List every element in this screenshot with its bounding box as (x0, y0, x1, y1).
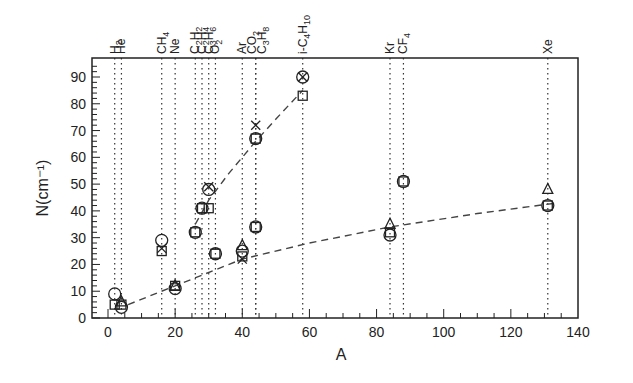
y-tick-label: 30 (70, 230, 86, 246)
x-tick-label: 0 (104, 324, 112, 340)
gas-label: Ne (168, 38, 182, 54)
x-tick-label: 100 (432, 324, 456, 340)
x-tick-label: 20 (167, 324, 183, 340)
gas-label: Kr (383, 42, 397, 54)
gas-label: Xe (541, 39, 555, 54)
y-tick-label: 60 (70, 149, 86, 165)
x-axis-label: A (336, 346, 347, 363)
plot-frame (92, 58, 578, 318)
x-axis-ticks: 020406080100120140 (104, 309, 590, 340)
x-tick-label: 80 (369, 324, 385, 340)
y-tick-label: 80 (70, 96, 86, 112)
gas-label: i-C4H10 (296, 15, 312, 54)
data-points (109, 71, 554, 313)
y-tick-label: 20 (70, 256, 86, 272)
gas-label: He (114, 38, 128, 54)
gas-label: CF4 (396, 33, 412, 54)
fit-curves (128, 90, 558, 304)
y-tick-label: 50 (70, 176, 86, 192)
y-tick-label: 90 (70, 69, 86, 85)
x-tick-label: 120 (499, 324, 523, 340)
chart: 020406080100120140 0102030405060708090 H… (0, 0, 633, 383)
x-tick-label: 60 (302, 324, 318, 340)
x-tick-label: 40 (234, 324, 250, 340)
y-tick-label: 10 (70, 283, 86, 299)
y-axis-label: N(cm⁻¹) (34, 160, 51, 217)
y-tick-label: 70 (70, 123, 86, 139)
y-tick-label: 40 (70, 203, 86, 219)
gas-label: C3H8 (255, 27, 271, 54)
x-tick-label: 140 (566, 324, 590, 340)
gas-reference-lines (115, 58, 548, 318)
gas-labels: H2HeCH4NeC2H2C2H4C3H6O2ArCO2C3H8i-C4H10K… (108, 15, 555, 54)
y-tick-label: 0 (78, 310, 86, 326)
y-axis-ticks: 0102030405060708090 (70, 66, 100, 326)
